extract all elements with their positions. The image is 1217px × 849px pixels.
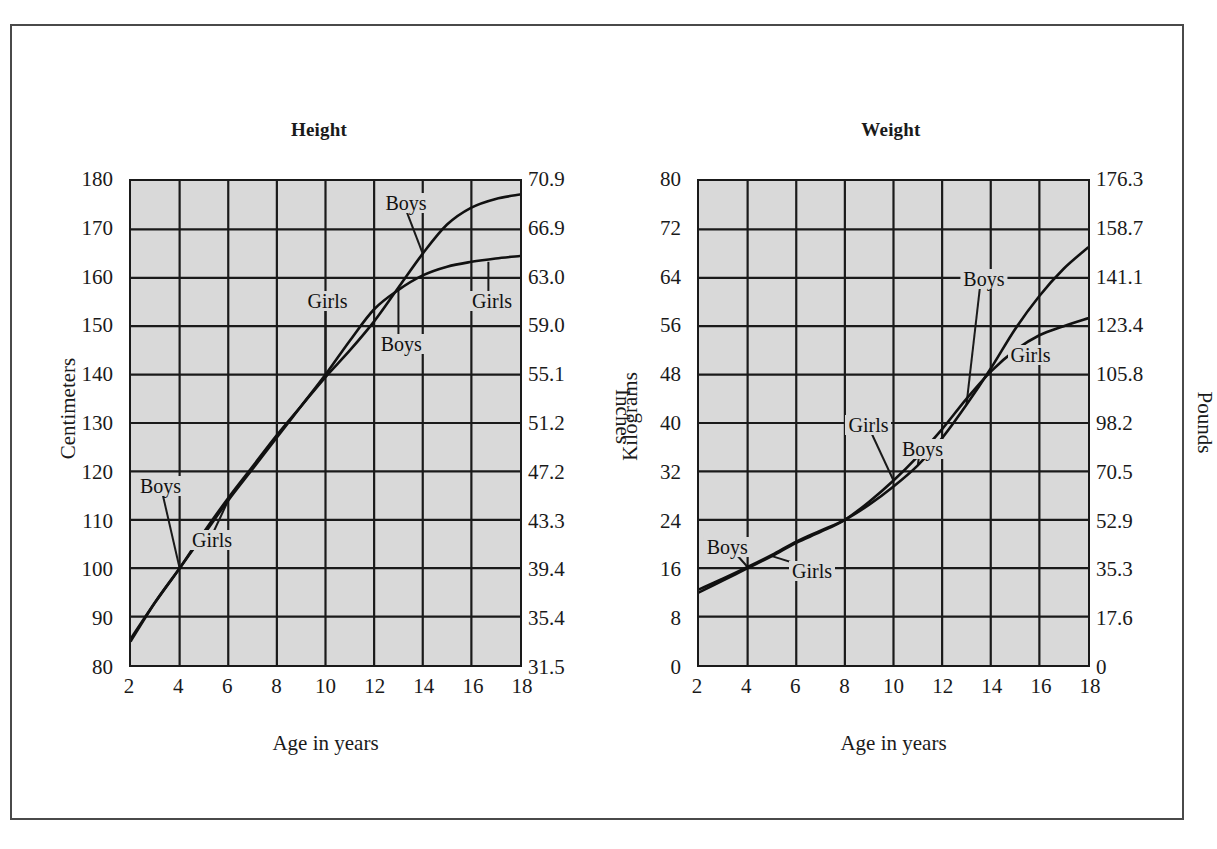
y2-tick-label: 158.7 (1096, 217, 1143, 238)
weight-x-axis-title: Age in years (697, 731, 1090, 756)
y-tick-label: 100 (82, 559, 114, 580)
weight-chart-title: Weight (601, 119, 1181, 141)
y-tick-label: 72 (660, 217, 681, 238)
y-tick-label: 24 (660, 510, 681, 531)
x-tick-label: 4 (173, 676, 184, 697)
series-annotation-girls: Girls (469, 291, 515, 311)
page-frame-border: Height Centimeters Inches 80901001101201… (10, 24, 1184, 820)
series-annotation-girls: Girls (305, 291, 351, 311)
y-tick-label: 48 (660, 364, 681, 385)
height-x-axis-tick-labels: 24681012141618 (129, 676, 522, 706)
y-tick-label: 140 (82, 364, 114, 385)
height-x-axis-title: Age in years (129, 731, 522, 756)
x-tick-label: 2 (124, 676, 135, 697)
height-y-axis-tick-labels: 8090100110120130140150160170180 (41, 179, 121, 667)
series-annotation-boys: Boys (137, 476, 184, 496)
y2-tick-label: 55.1 (528, 364, 565, 385)
y2-tick-label: 63.0 (528, 266, 565, 287)
y-tick-label: 32 (660, 461, 681, 482)
y2-tick-label: 17.6 (1096, 608, 1133, 629)
y-tick-label: 80 (92, 657, 113, 678)
x-tick-label: 2 (692, 676, 703, 697)
x-tick-label: 16 (462, 676, 483, 697)
y-tick-label: 160 (82, 266, 114, 287)
weight-y-axis-tick-labels: 08162432404856647280 (609, 179, 689, 667)
y2-tick-label: 176.3 (1096, 169, 1143, 190)
y-tick-label: 150 (82, 315, 114, 336)
y-tick-label: 64 (660, 266, 681, 287)
y2-tick-label: 105.8 (1096, 364, 1143, 385)
weight-y2-axis-tick-labels: 017.635.352.970.598.2105.8123.4141.1158.… (1096, 179, 1176, 667)
series-annotation-boys: Boys (383, 193, 430, 213)
x-tick-label: 8 (839, 676, 850, 697)
y2-tick-label: 43.3 (528, 510, 565, 531)
y2-tick-label: 47.2 (528, 461, 565, 482)
x-tick-label: 16 (1030, 676, 1051, 697)
x-tick-label: 8 (271, 676, 282, 697)
x-tick-label: 12 (364, 676, 385, 697)
x-tick-label: 14 (981, 676, 1002, 697)
x-tick-label: 4 (741, 676, 752, 697)
y2-tick-label: 141.1 (1096, 266, 1143, 287)
x-tick-label: 6 (222, 676, 233, 697)
y2-tick-label: 39.4 (528, 559, 565, 580)
x-tick-label: 18 (1080, 676, 1101, 697)
y2-tick-label: 52.9 (1096, 510, 1133, 531)
y2-tick-label: 51.2 (528, 413, 565, 434)
x-tick-label: 6 (790, 676, 801, 697)
y2-tick-label: 35.3 (1096, 559, 1133, 580)
height-plot-svg (131, 181, 520, 665)
y-tick-label: 110 (82, 510, 113, 531)
weight-y2-axis-title: Pounds (1192, 343, 1217, 503)
y-tick-label: 120 (82, 461, 114, 482)
y-tick-label: 180 (82, 169, 114, 190)
gridlines (699, 181, 1088, 665)
gridlines (131, 181, 520, 665)
series-annotation-boys: Boys (378, 334, 425, 354)
y2-tick-label: 123.4 (1096, 315, 1143, 336)
y-tick-label: 56 (660, 315, 681, 336)
series-annotation-boys: Boys (960, 269, 1007, 289)
series-annotation-girls: Girls (189, 530, 235, 550)
series-annotation-girls: Girls (789, 561, 835, 581)
y-tick-label: 40 (660, 413, 681, 434)
y2-tick-label: 35.4 (528, 608, 565, 629)
y-tick-label: 90 (92, 608, 113, 629)
y-tick-label: 0 (671, 657, 682, 678)
series-annotation-girls: Girls (845, 415, 891, 435)
x-tick-label: 10 (315, 676, 336, 697)
height-y2-axis-tick-labels: 31.535.439.443.347.251.255.159.063.066.9… (528, 179, 608, 667)
weight-figure: Weight Kilograms Pounds 0816243240485664… (608, 26, 1188, 822)
y2-tick-label: 70.5 (1096, 461, 1133, 482)
height-figure: Height Centimeters Inches 80901001101201… (40, 26, 620, 822)
y2-tick-label: 70.9 (528, 169, 565, 190)
y2-tick-label: 66.9 (528, 217, 565, 238)
weight-plot-area: BoysGirlsGirlsBoysBoysGirls (697, 179, 1090, 667)
height-plot-area: BoysGirlsGirlsBoysBoysGirls (129, 179, 522, 667)
x-tick-label: 10 (883, 676, 904, 697)
height-plot-svg-wrapper (131, 181, 520, 665)
series-annotation-girls: Girls (1008, 345, 1054, 365)
y2-tick-label: 98.2 (1096, 413, 1133, 434)
y-tick-label: 8 (671, 608, 682, 629)
x-tick-label: 18 (512, 676, 533, 697)
y2-tick-label: 59.0 (528, 315, 565, 336)
y2-tick-label: 31.5 (528, 657, 565, 678)
weight-x-axis-tick-labels: 24681012141618 (697, 676, 1090, 706)
y-tick-label: 16 (660, 559, 681, 580)
weight-plot-svg (699, 181, 1088, 665)
y-tick-label: 130 (82, 413, 114, 434)
x-tick-label: 12 (932, 676, 953, 697)
height-chart-title: Height (29, 119, 609, 141)
x-tick-label: 14 (413, 676, 434, 697)
weight-plot-svg-wrapper (699, 181, 1088, 665)
series-annotation-boys: Boys (899, 439, 946, 459)
annotation-leader-lines (160, 203, 488, 568)
y-tick-label: 170 (82, 217, 114, 238)
series-annotation-boys: Boys (704, 537, 751, 557)
y-tick-label: 80 (660, 169, 681, 190)
